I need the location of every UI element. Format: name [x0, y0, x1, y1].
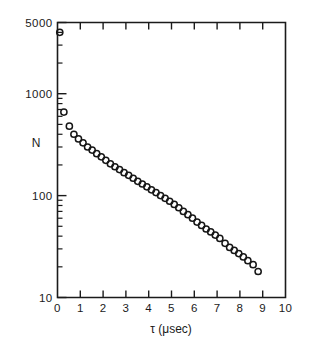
- x-tick-label-3: 3: [123, 302, 130, 314]
- data-point: [250, 262, 256, 268]
- y-axis-title: N: [32, 136, 41, 150]
- x-tick-label-2: 2: [100, 302, 107, 314]
- x-tick-label-6: 6: [191, 302, 198, 314]
- x-tick-label-7: 7: [214, 302, 221, 314]
- x-tick-label-0: 0: [54, 302, 61, 314]
- x-axis-title: τ (μsec): [150, 322, 192, 336]
- x-tick-label-4: 4: [145, 302, 152, 314]
- decay-curve-figure: 012345678910 1010010005000 N τ (μsec): [0, 0, 316, 350]
- x-tick-label-8: 8: [237, 302, 244, 314]
- data-point-series: [57, 29, 262, 274]
- x-axis-ticks-bottom: [80, 291, 262, 298]
- data-point: [217, 235, 223, 241]
- x-axis-tick-labels: 012345678910: [54, 302, 292, 314]
- y-tick-label-2: 1000: [25, 88, 52, 100]
- x-axis-ticks-top: [80, 23, 262, 30]
- y-tick-label-3: 5000: [25, 17, 52, 29]
- x-tick-label-9: 9: [259, 302, 266, 314]
- x-tick-label-1: 1: [77, 302, 84, 314]
- y-axis-tick-labels: 1010010005000: [25, 17, 52, 304]
- chart-svg: 012345678910 1010010005000 N τ (μsec): [0, 0, 316, 350]
- x-tick-label-5: 5: [168, 302, 175, 314]
- plot-frame: [58, 23, 286, 298]
- data-point: [255, 268, 261, 274]
- y-tick-label-0: 10: [39, 292, 53, 304]
- y-tick-label-1: 100: [32, 190, 52, 202]
- x-tick-label-10: 10: [279, 302, 293, 314]
- data-point: [66, 123, 72, 129]
- y-axis-ticks-major: [58, 23, 67, 298]
- data-point: [61, 109, 67, 115]
